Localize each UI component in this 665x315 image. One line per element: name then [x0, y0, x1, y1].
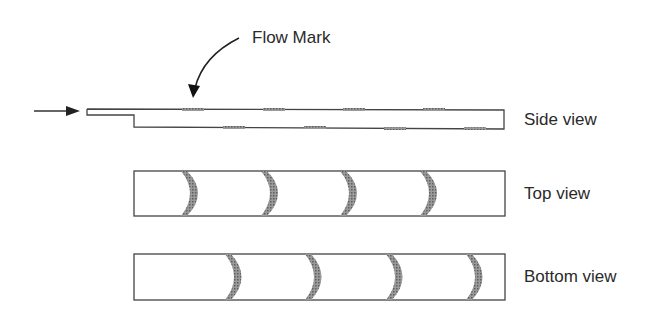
flow-mark-pointer-arrow-icon: [188, 38, 239, 98]
bottom-view-flow-marks: [225, 254, 483, 300]
bottom-view-part: [134, 254, 505, 300]
flow-mark-label: Flow Mark: [252, 28, 330, 48]
bottom-view-label: Bottom view: [524, 267, 617, 287]
side-view-flow-marks: [182, 108, 486, 130]
side-view-label: Side view: [524, 110, 597, 130]
top-view-label: Top view: [524, 184, 590, 204]
side-view-part: [87, 108, 504, 130]
top-view-part: [134, 171, 505, 216]
top-view-flow-marks: [181, 171, 437, 216]
flow-direction-arrow-icon: [34, 106, 80, 116]
